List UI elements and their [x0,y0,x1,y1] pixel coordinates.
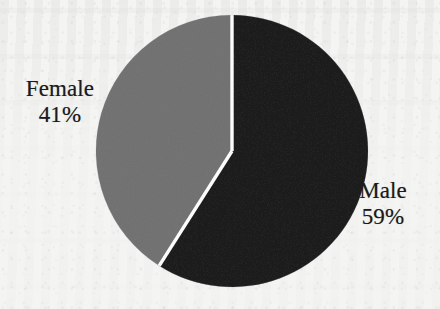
pie-label-female-name: Female [12,76,108,102]
pie-label-male-percent: 59% [346,204,420,230]
pie-label-male: Male 59% [346,178,420,230]
pie-chart [0,0,440,309]
scanned-page: Female 41% Male 59% [0,0,440,309]
pie-label-female-percent: 41% [12,102,108,128]
pie-label-female: Female 41% [12,76,108,128]
pie-label-male-name: Male [346,178,420,204]
